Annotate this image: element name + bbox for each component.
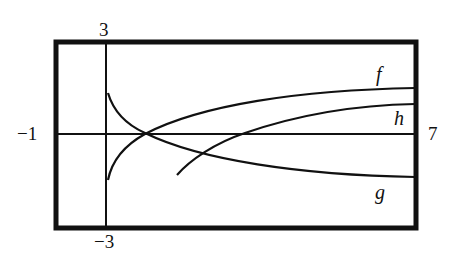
curve-f-label: f — [376, 64, 382, 84]
curve-h-label: h — [394, 108, 404, 128]
curve-h — [177, 104, 415, 175]
xmin-label: −1 — [17, 124, 37, 143]
ymax-label: 3 — [99, 20, 109, 39]
graph-canvas — [0, 0, 451, 256]
calculator-graph-window: 3 −3 −1 7 f h g — [0, 0, 451, 256]
ymin-label: −3 — [94, 232, 114, 251]
curve-g-label: g — [375, 182, 385, 202]
xmax-label: 7 — [428, 124, 438, 143]
